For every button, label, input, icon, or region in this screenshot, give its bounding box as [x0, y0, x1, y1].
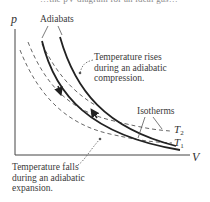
adiabats-label: Adiabats — [40, 14, 74, 25]
compression-annotation: Temperature rises during an adiabatic co… — [94, 52, 167, 84]
adiabats-leaders — [42, 26, 62, 38]
t2-label: T2 — [174, 123, 184, 137]
axes — [15, 29, 190, 155]
x-axis-label: V — [192, 150, 199, 165]
t1-label: T1 — [174, 136, 184, 150]
pv-diagram: …the pV-diagram for an ideal gas… — [0, 0, 210, 202]
expansion-annotation: Temperature falls during an adiabatic ex… — [12, 162, 85, 194]
compression-leader — [80, 60, 93, 73]
isotherms-label: Isotherms — [137, 106, 174, 117]
y-axis-label: p — [11, 12, 17, 27]
